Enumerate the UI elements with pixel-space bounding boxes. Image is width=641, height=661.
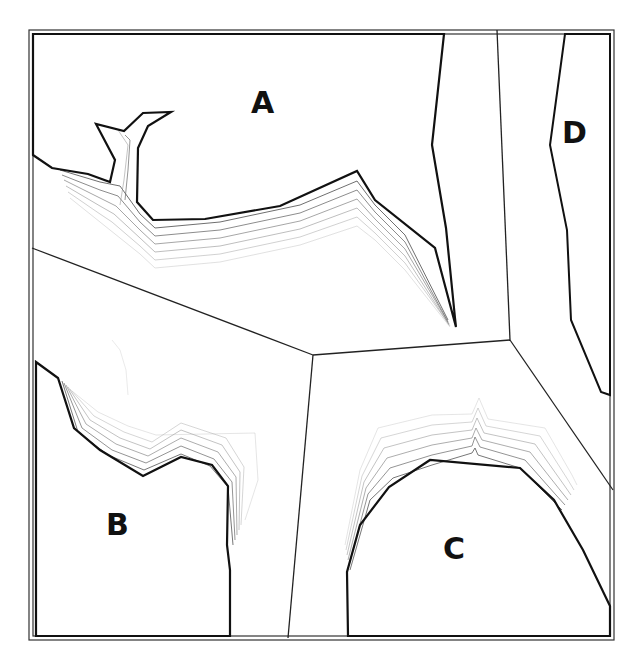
contours-a [60, 130, 450, 327]
region-label-a: A [251, 88, 274, 118]
region-b-boundary [36, 362, 230, 636]
partition-lines [32, 30, 613, 638]
region-label-d: D [562, 118, 587, 148]
region-label-c: C [443, 534, 465, 564]
region-c-boundary [347, 460, 610, 636]
outer-frame [29, 30, 614, 640]
region-d-boundary [550, 34, 610, 395]
region-label-b: B [106, 510, 129, 540]
diagram-canvas: A B C D [0, 0, 641, 661]
